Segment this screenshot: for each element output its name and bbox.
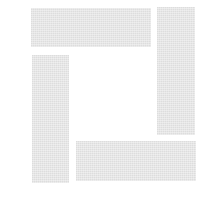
logo-bar-left [32,55,69,183]
logo-bar-right [157,7,195,135]
logo-bar-top [31,8,151,47]
square-bars-logo [0,0,211,206]
logo-bar-bottom [76,141,196,181]
